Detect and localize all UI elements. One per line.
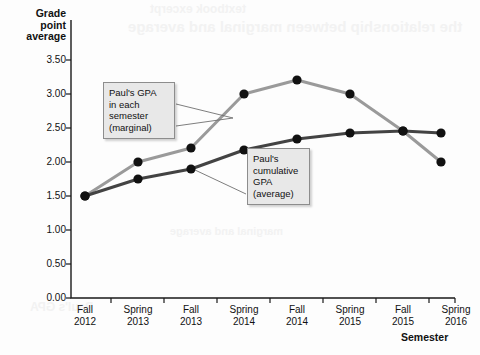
callout-marginal-gpa: Paul's GPA in each semester (marginal) [103, 82, 175, 139]
data-point [436, 157, 445, 166]
gpa-line-chart: textbook excerpt the relationship betwee… [0, 0, 480, 355]
data-point [80, 191, 89, 200]
cumulative-leader-line [195, 170, 246, 194]
data-point [345, 128, 354, 137]
data-point [239, 89, 248, 98]
callout-cumulative-line2: cumulative [253, 165, 304, 177]
data-point [292, 134, 301, 143]
callout-marginal-line3: semester [109, 110, 169, 122]
y-tick-marks [66, 60, 71, 298]
data-point [133, 157, 142, 166]
callout-cumulative-line1: Paul's [253, 153, 304, 165]
data-point [186, 164, 195, 173]
marginal-leader-line [176, 104, 233, 118]
callout-marginal-line1: Paul's GPA [109, 87, 169, 99]
marginal-leader-line-2 [176, 118, 233, 126]
data-point [133, 174, 142, 183]
x-tick-marks [111, 298, 455, 303]
data-point [345, 89, 354, 98]
data-point [436, 128, 445, 137]
callout-marginal-line2: in each [109, 99, 169, 111]
callout-marginal-line4: (marginal) [109, 122, 169, 134]
callout-cumulative-gpa: Paul's cumulative GPA (average) [247, 148, 310, 205]
callout-cumulative-line3: GPA [253, 176, 304, 188]
data-point [292, 75, 301, 84]
plot-area [0, 0, 480, 355]
data-point [186, 143, 195, 152]
callout-cumulative-line4: (average) [253, 188, 304, 200]
data-point [398, 126, 407, 135]
